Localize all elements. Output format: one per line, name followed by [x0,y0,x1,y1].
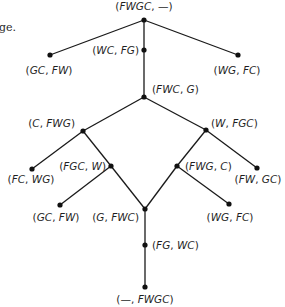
state-node-dot [142,242,147,247]
state-node-label: (W, FGC) [211,117,258,129]
state-node-dot [141,94,146,99]
tree-edge [111,166,145,209]
tree-edge [83,97,144,131]
state-node-dot [254,165,259,170]
tree-edge [144,97,206,130]
state-node-dot [235,52,240,57]
state-node-dot [142,206,147,211]
state-node-dot [174,163,179,168]
state-node-label: (WC, FG) [92,44,139,56]
state-node-dot [108,163,113,168]
state-node-label: (GC, FW) [26,64,73,76]
state-node-label: (GC, FW) [33,211,80,223]
state-node-dot [141,47,146,52]
state-node-dot [47,52,52,57]
state-node-label: (WG, FC) [214,64,261,76]
state-node-dot [29,166,34,171]
state-node-label: (FGC, W) [59,160,106,172]
state-node-label: (C, FWG) [28,117,75,129]
state-node-label: (FWGC, —) [115,0,172,12]
tree-edge [145,166,177,209]
state-node-label: (FWG, C) [185,160,232,172]
clipped-body-text: ge. [0,21,16,34]
state-node-label: (FWC, G) [152,83,199,95]
state-node-dot [57,202,62,207]
tree-edge [144,20,238,55]
state-node-dot [203,127,208,132]
state-node-dot [142,284,147,289]
state-node-dot [141,17,146,22]
state-node-label: (—, FWGC) [116,293,173,305]
state-space-tree-diagram: ge. (FWGC, —)(GC, FW)(WC, FG)(WG, FC)(FW… [0,0,285,307]
state-node-label: (WG, FC) [207,211,254,223]
state-node-label: (FW, GC) [235,173,282,185]
state-node-label: (FC, WG) [8,173,55,185]
state-node-label: (G, FWC) [92,211,139,223]
state-node-dot [226,201,231,206]
state-node-label: (FG, WC) [152,239,199,251]
state-node-dot [80,128,85,133]
